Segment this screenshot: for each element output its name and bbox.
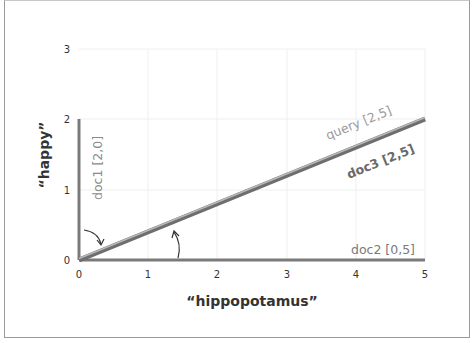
y-tick-1: 1 <box>64 185 70 196</box>
x-tick-3: 3 <box>284 269 290 280</box>
x-tick-0: 0 <box>76 269 82 280</box>
y-axis-title: “happy” <box>36 122 52 189</box>
query-vector <box>79 118 425 259</box>
x-tick-5: 5 <box>422 269 428 280</box>
vector-chart: 0 1 2 3 0 1 2 3 4 5 “hippopotamus” “happ… <box>0 0 475 343</box>
angle-arrow-doc1 <box>84 230 104 245</box>
x-tick-labels: 0 1 2 3 4 5 <box>76 269 428 280</box>
doc1-label: doc1 [2,0] <box>90 136 105 200</box>
y-tick-2: 2 <box>64 114 70 125</box>
doc2-label: doc2 [0,5] <box>351 242 415 257</box>
gridlines <box>79 49 425 260</box>
x-tick-2: 2 <box>214 269 220 280</box>
y-tick-labels: 0 1 2 3 <box>64 44 70 266</box>
y-tick-0: 0 <box>64 255 70 266</box>
x-tick-4: 4 <box>353 269 359 280</box>
y-tick-3: 3 <box>64 44 70 55</box>
x-tick-1: 1 <box>145 269 151 280</box>
x-axis-title: “hippopotamus” <box>186 293 318 309</box>
angle-arrow-doc2 <box>172 231 179 258</box>
